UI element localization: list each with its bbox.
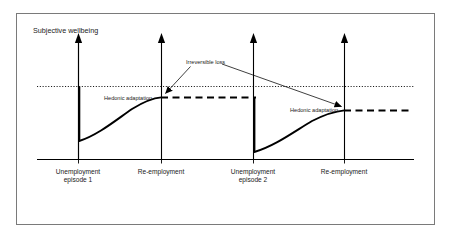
annotation-hedonic-adaptation-2: Hedonic adaptation	[290, 107, 338, 114]
trajectory-episode-2	[254, 98, 344, 153]
event-axis-4-arrowhead	[341, 33, 348, 43]
diagram-svg	[0, 0, 452, 240]
x-tick-label-line2: episode 2	[239, 176, 268, 183]
x-axis-ticks	[79, 160, 345, 164]
x-tick-label-line1: Re-employment	[321, 168, 368, 175]
hedonic-adaptation-curve-1	[79, 97, 161, 141]
x-tick-label-line1: Unemployment	[231, 168, 275, 175]
x-tick-label-line1: Re-employment	[138, 168, 185, 175]
annotation-irreversible-loss: Irreversible loss	[186, 59, 225, 66]
x-tick-label-unemployment-episode-2: Unemployment episode 2	[210, 168, 296, 184]
irreversible-loss-leader-2	[222, 64, 342, 107]
hedonic-adaptation-curve-2	[254, 110, 344, 152]
x-tick-label-unemployment-episode-1: Unemployment episode 1	[35, 168, 121, 184]
x-tick-label-line2: episode 1	[64, 176, 93, 183]
event-axis-3-arrowhead	[250, 33, 257, 43]
x-tick-label-line1: Unemployment	[56, 168, 100, 175]
annotation-hedonic-adaptation-1: Hedonic adaptation	[104, 95, 152, 102]
x-tick-label-re-employment-1: Re-employment	[118, 168, 204, 176]
figure-canvas: Subjective wellbeing Unemployment episod…	[0, 0, 452, 240]
irreversible-loss-leader-1	[166, 67, 191, 94]
y-axis-title: Subjective wellbeing	[33, 27, 98, 35]
x-tick-label-re-employment-2: Re-employment	[301, 168, 387, 176]
event-axis-2-arrowhead	[158, 33, 165, 43]
